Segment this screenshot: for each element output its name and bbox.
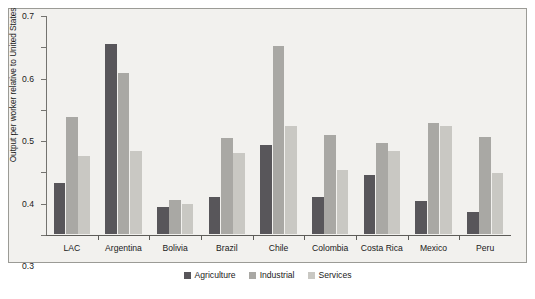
legend-item: Services: [308, 270, 352, 280]
bar-industrial-brazil: [221, 138, 233, 234]
bar-industrial-argentina: [118, 73, 130, 234]
bar-services-mexico: [440, 126, 452, 234]
x-axis-tick: [98, 235, 99, 240]
y-axis-title: Output per worker relative to United Sta…: [8, 0, 18, 185]
bar-services-argentina: [130, 151, 142, 234]
plot-area: 00.10.20.30.40.50.60.7 LACArgentinaBoliv…: [46, 16, 511, 235]
x-axis-tick: [304, 235, 305, 240]
bar-agriculture-argentina: [105, 44, 117, 234]
y-axis-tick-label: 0.7: [22, 11, 34, 21]
y-axis-tick: 0.7: [41, 16, 46, 17]
bar-agriculture-colombia: [312, 197, 324, 234]
bar-services-lac: [78, 156, 90, 234]
bar-agriculture-mexico: [415, 201, 427, 234]
bar-services-peru: [492, 173, 504, 234]
bar-services-chile: [285, 126, 297, 234]
bar-group: [467, 15, 503, 234]
bar-group: [105, 15, 141, 234]
x-axis-line: [46, 235, 511, 236]
legend-item: Industrial: [249, 270, 295, 280]
bar-industrial-bolivia: [169, 200, 181, 234]
bar-industrial-lac: [66, 117, 78, 234]
bar-agriculture-brazil: [209, 197, 221, 234]
y-axis-tick: 0.3: [41, 141, 46, 142]
x-axis-tick: [149, 235, 150, 240]
x-axis-tick: [408, 235, 409, 240]
chart-figure: Output per worker relative to United Sta…: [0, 0, 535, 299]
bar-services-costa-rica: [388, 151, 400, 234]
x-category-label: Costa Rica: [361, 243, 403, 253]
bar-industrial-colombia: [324, 135, 336, 234]
y-axis-line: [46, 16, 47, 236]
y-axis-tick: 0.6: [41, 47, 46, 48]
y-axis-tick: 0: [41, 235, 46, 236]
x-category-label: Peru: [476, 243, 494, 253]
x-category-label: Colombia: [312, 243, 348, 253]
bar-agriculture-costa-rica: [364, 175, 376, 234]
bar-agriculture-bolivia: [157, 207, 169, 234]
x-axis-tick: [459, 235, 460, 240]
legend-label: Industrial: [260, 270, 295, 280]
y-axis-tick-label: 0.5: [22, 136, 34, 146]
services-swatch: [308, 272, 315, 279]
bar-group: [415, 15, 451, 234]
bar-agriculture-peru: [467, 212, 479, 234]
agriculture-swatch: [184, 272, 191, 279]
bar-services-colombia: [337, 170, 349, 234]
bar-group: [54, 15, 90, 234]
legend-label: Services: [319, 270, 352, 280]
bar-agriculture-chile: [260, 145, 272, 234]
y-axis-tick: 0.2: [41, 172, 46, 173]
x-category-label: Chile: [269, 243, 289, 253]
y-axis-tick: 0.4: [41, 110, 46, 111]
x-category-label: Argentina: [105, 243, 142, 253]
chart-legend: AgricultureIndustrialServices: [0, 270, 535, 280]
bar-group: [260, 15, 296, 234]
bar-group: [157, 15, 193, 234]
bar-group: [209, 15, 245, 234]
bar-group: [364, 15, 400, 234]
y-axis-tick-label: 0.4: [22, 199, 34, 209]
bar-industrial-peru: [479, 137, 491, 234]
industrial-swatch: [249, 272, 256, 279]
legend-item: Agriculture: [184, 270, 236, 280]
y-axis-tick: 0.5: [41, 79, 46, 80]
bar-industrial-mexico: [428, 123, 440, 234]
x-axis-tick: [253, 235, 254, 240]
bar-services-bolivia: [182, 204, 194, 234]
x-axis-tick: [356, 235, 357, 240]
x-category-label: Brazil: [216, 243, 238, 253]
legend-label: Agriculture: [195, 270, 236, 280]
x-axis-tick: [201, 235, 202, 240]
bar-industrial-costa-rica: [376, 143, 388, 234]
x-category-label: Bolivia: [162, 243, 187, 253]
x-category-label: LAC: [63, 243, 80, 253]
y-axis-tick-label: 0.6: [22, 74, 34, 84]
bar-industrial-chile: [273, 46, 285, 234]
bar-agriculture-lac: [54, 183, 66, 234]
bar-services-brazil: [233, 153, 245, 234]
bar-group: [312, 15, 348, 234]
x-category-label: Mexico: [420, 243, 447, 253]
y-axis-tick: 0.1: [41, 204, 46, 205]
